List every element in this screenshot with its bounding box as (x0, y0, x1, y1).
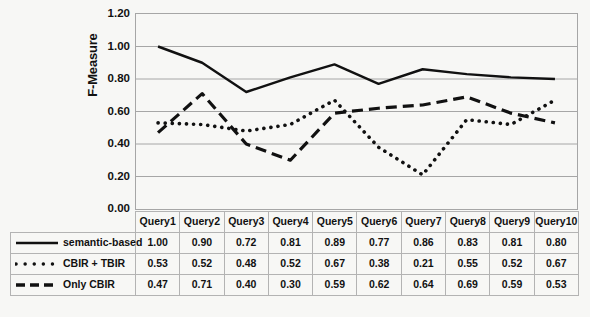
legend-entry: CBIR + TBIR (11, 254, 136, 275)
legend-label: Only CBIR (63, 279, 115, 290)
column-header-label: Query9 (494, 215, 530, 227)
y-tick-label: 0.80 (78, 72, 130, 84)
column-header-query3: Query3 (224, 212, 268, 233)
legend-entry: semantic-based (11, 233, 136, 254)
table-row: Only CBIR0.470.710.400.300.590.620.640.6… (11, 275, 579, 296)
column-header-query8: Query8 (446, 212, 490, 233)
legend-entry-inner: semantic-based (15, 237, 135, 248)
table-cell-value: 0.69 (446, 275, 490, 296)
series-lines (158, 47, 555, 175)
column-header-query7: Query7 (401, 212, 445, 233)
table-cell-value: 0.71 (180, 275, 224, 296)
table-cell-value: 0.38 (357, 254, 401, 275)
table-cell-value: 0.52 (490, 254, 534, 275)
legend-entry-inner: CBIR + TBIR (15, 258, 135, 269)
column-header-label: Query5 (317, 215, 353, 227)
data-table: Query1Query2Query3Query4Query5Query6Quer… (10, 211, 579, 296)
table-cell-value: 0.52 (268, 254, 312, 275)
table-cell-value: 0.40 (224, 275, 268, 296)
column-header-label: Query1 (140, 215, 176, 227)
table-cell-value: 0.53 (534, 275, 578, 296)
table-cell-value: 0.80 (534, 233, 578, 254)
legend-entry: Only CBIR (11, 275, 136, 296)
column-header-label: Query7 (405, 215, 441, 227)
series-line-semantic-based (158, 47, 555, 93)
solid-line-swatch (15, 238, 59, 248)
table-cell-value: 0.77 (357, 233, 401, 254)
column-header-query4: Query4 (268, 212, 312, 233)
chart-figure: F-Measure 1.201.000.800.600.400.200.00 Q… (0, 0, 590, 317)
table-corner-cell (11, 212, 136, 233)
table-cell-value: 0.64 (401, 275, 445, 296)
dashed-line-swatch (15, 280, 59, 290)
column-header-query1: Query1 (136, 212, 180, 233)
table-cell-value: 0.72 (224, 233, 268, 254)
table-header-row: Query1Query2Query3Query4Query5Query6Quer… (11, 212, 579, 233)
column-header-query6: Query6 (357, 212, 401, 233)
y-tick-label: 1.00 (78, 40, 130, 52)
plot-area (135, 13, 578, 210)
series-line-only-cbir (158, 94, 555, 161)
table-cell-value: 0.81 (490, 233, 534, 254)
column-header-query5: Query5 (313, 212, 357, 233)
table-cell-value: 0.21 (401, 254, 445, 275)
column-header-query2: Query2 (180, 212, 224, 233)
legend-entry-inner: Only CBIR (15, 279, 135, 290)
y-tick-label: 0.60 (78, 105, 130, 117)
table-cell-value: 0.53 (136, 254, 180, 275)
plot-svg (136, 14, 577, 209)
column-header-query9: Query9 (490, 212, 534, 233)
table-cell-value: 0.67 (534, 254, 578, 275)
column-header-query10: Query10 (534, 212, 578, 233)
column-header-label: Query6 (361, 215, 397, 227)
y-tick-label: 0.20 (78, 170, 130, 182)
column-header-label: Query4 (272, 215, 308, 227)
table-cell-value: 0.89 (313, 233, 357, 254)
table-cell-value: 0.30 (268, 275, 312, 296)
legend-label: CBIR + TBIR (63, 258, 125, 269)
table-cell-value: 0.48 (224, 254, 268, 275)
column-header-label: Query2 (184, 215, 220, 227)
y-axis-tick-labels: 1.201.000.800.600.400.200.00 (78, 9, 130, 213)
table-cell-value: 0.90 (180, 233, 224, 254)
column-header-label: Query3 (228, 215, 264, 227)
table-cell-value: 0.59 (490, 275, 534, 296)
table-cell-value: 0.62 (357, 275, 401, 296)
column-header-label: Query10 (535, 215, 577, 227)
dotted-line-swatch (15, 259, 59, 269)
table-cell-value: 0.67 (313, 254, 357, 275)
table-cell-value: 0.55 (446, 254, 490, 275)
table-row: CBIR + TBIR0.530.520.480.520.670.380.210… (11, 254, 579, 275)
table-cell-value: 0.81 (268, 233, 312, 254)
y-tick-label: 0.40 (78, 137, 130, 149)
table-row: semantic-based1.000.900.720.810.890.770.… (11, 233, 579, 254)
y-tick-label: 1.20 (78, 7, 130, 19)
column-header-label: Query8 (450, 215, 486, 227)
table-cell-value: 0.83 (446, 233, 490, 254)
table-cell-value: 0.59 (313, 275, 357, 296)
table-cell-value: 0.86 (401, 233, 445, 254)
table-cell-value: 0.47 (136, 275, 180, 296)
table-cell-value: 0.52 (180, 254, 224, 275)
legend-label: semantic-based (63, 237, 142, 248)
